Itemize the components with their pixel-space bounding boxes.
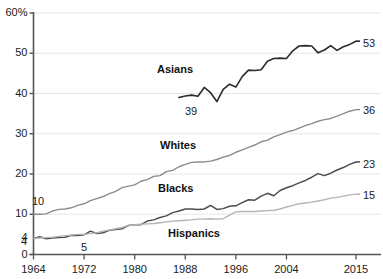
series-label-asians: Asians [157, 64, 193, 75]
value-annotation-36: 36 [363, 105, 375, 116]
y-axis-label-20: 20 [15, 168, 27, 179]
x-axis-label-1980: 1980 [113, 264, 157, 275]
x-axis-label-2004: 2004 [264, 264, 308, 275]
x-axis-label-1964: 1964 [12, 264, 56, 275]
value-annotation-5: 5 [81, 242, 87, 253]
series-label-hispanics: Hispanics [168, 228, 220, 239]
value-annotation-15: 15 [363, 190, 375, 201]
y-axis-label-60: 60% [5, 7, 27, 18]
series-line-asians [179, 41, 356, 101]
value-annotation-39: 39 [185, 106, 197, 117]
x-axis-label-1972: 1972 [62, 264, 106, 275]
y-axis-label-30: 30 [15, 128, 27, 139]
y-axis-label-40: 40 [15, 88, 27, 99]
value-annotation-10: 10 [32, 196, 44, 207]
x-axis-label-2015: 2015 [334, 264, 378, 275]
x-axis-label-1988: 1988 [163, 264, 207, 275]
value-annotation-4: 4 [21, 236, 27, 247]
y-axis-label-50: 50 [15, 47, 27, 58]
series-label-blacks: Blacks [158, 183, 193, 194]
chart-container: 60%5040302010401964197219801988199620042… [0, 0, 383, 279]
value-annotation-53: 53 [363, 38, 375, 49]
x-axis-label-1996: 1996 [214, 264, 258, 275]
y-axis-label-10: 10 [15, 208, 27, 219]
series-label-whites: Whites [160, 140, 196, 151]
value-annotation-23: 23 [363, 159, 375, 170]
y-axis-label-0: 0 [21, 249, 27, 260]
series-line-whites [34, 110, 357, 215]
